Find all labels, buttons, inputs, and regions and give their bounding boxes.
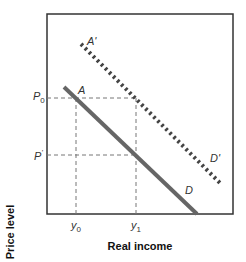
demand-curve-d-prime — [81, 44, 222, 185]
point-label-a: A — [78, 84, 85, 96]
curve-label-d: D — [185, 184, 193, 196]
tick-y1: y1 — [131, 219, 141, 234]
x-axis-label: Real income — [90, 240, 190, 252]
plot-frame — [47, 14, 233, 214]
point-label-a-prime: A' — [87, 35, 96, 47]
y-axis-label: Price level — [4, 184, 18, 262]
curve-label-d-prime: D' — [210, 152, 220, 164]
tick-p-prime: P' — [34, 148, 43, 162]
tick-p0: P0 — [33, 90, 45, 105]
diagram-canvas — [0, 0, 246, 262]
tick-y0: y0 — [71, 219, 81, 234]
demand-curve-d — [64, 87, 197, 214]
